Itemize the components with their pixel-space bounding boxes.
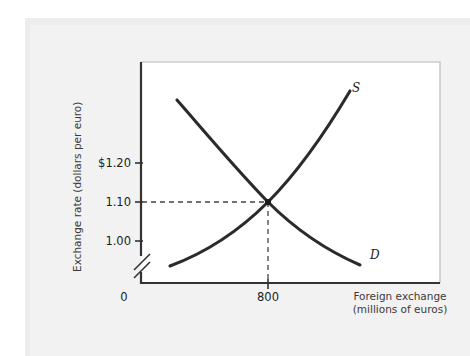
x-axis-title-line1: Foreign exchange	[353, 290, 446, 302]
demand-curve-label: D	[369, 248, 380, 262]
y-tick-label-120: $1.20	[98, 156, 131, 170]
plot-area-background	[141, 62, 440, 283]
x-axis-title-line2: (millions of euros)	[353, 303, 448, 315]
equilibrium-point-marker	[265, 199, 271, 205]
x-tick-label-800: 800	[257, 290, 279, 304]
y-tick-label-110: 1.10	[105, 195, 131, 209]
screenshot-root: $1.20 1.10 1.00 800 0 Exchange rate (dol…	[0, 0, 470, 356]
y-axis-title: Exchange rate (dollars per euro)	[71, 102, 83, 272]
y-tick-label-100: 1.00	[105, 234, 131, 248]
supply-curve-label: S	[352, 81, 360, 95]
x-axis-origin-label: 0	[120, 290, 127, 304]
exchange-rate-supply-demand-chart: $1.20 1.10 1.00 800 0 Exchange rate (dol…	[0, 0, 470, 356]
